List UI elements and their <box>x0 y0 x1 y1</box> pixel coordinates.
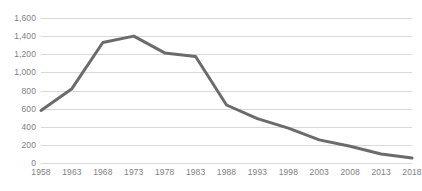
x-tick-label: 2008 <box>341 168 360 177</box>
x-tick-label: 1973 <box>124 168 143 177</box>
y-tick-label: 400 <box>0 123 36 132</box>
y-tick-label: 600 <box>0 105 36 114</box>
x-tick-label: 1968 <box>93 168 112 177</box>
x-tick-label: 2013 <box>371 168 390 177</box>
x-tick-label: 1963 <box>62 168 81 177</box>
x-tick-label: 1993 <box>248 168 267 177</box>
y-tick-label: 1,000 <box>0 68 36 77</box>
x-tick-label: 1988 <box>217 168 236 177</box>
plot-area <box>41 18 412 163</box>
x-tick-label: 1998 <box>279 168 298 177</box>
x-axis-labels: 1958196319681973197819831988199319982003… <box>41 168 412 186</box>
gridline <box>41 163 412 164</box>
y-tick-label: 1,400 <box>0 32 36 41</box>
y-tick-label: 800 <box>0 87 36 96</box>
y-tick-label: 1,200 <box>0 50 36 59</box>
y-axis-labels: 02004006008001,0001,2001,4001,600 <box>0 0 36 191</box>
x-tick-label: 1983 <box>186 168 205 177</box>
x-tick-label: 1978 <box>155 168 174 177</box>
y-tick-label: 200 <box>0 141 36 150</box>
x-tick-label: 2018 <box>402 168 421 177</box>
x-tick-label: 2003 <box>310 168 329 177</box>
x-tick-label: 1958 <box>31 168 50 177</box>
y-tick-label: 1,600 <box>0 14 36 23</box>
series-line-group <box>41 18 412 163</box>
series-line <box>41 36 412 158</box>
